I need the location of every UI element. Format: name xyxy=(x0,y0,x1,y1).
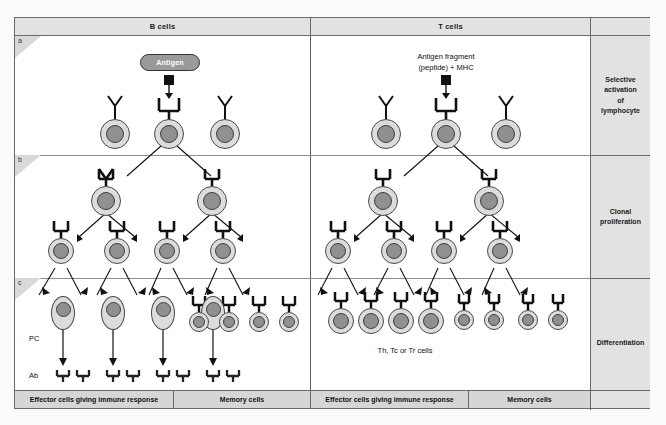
t-effector-caption: Th, Tc or Tr cells xyxy=(340,346,470,357)
t-effector-cell-3 xyxy=(388,308,414,334)
mhc-peptide-square xyxy=(441,75,451,85)
t-effector-cell-1 xyxy=(328,308,354,334)
row-c-b-connectors xyxy=(15,278,310,391)
outcome-b-memory: Memory cells xyxy=(173,390,310,408)
b-clone-level1-left xyxy=(91,186,121,216)
t-memory-cell-2 xyxy=(484,310,504,330)
row-a-t-cells: Antigen fragment (peptide) + MHC xyxy=(310,36,590,155)
b-lymphocyte-unselected-right xyxy=(210,119,240,149)
outcome-t-effector: Effector cells giving immune response xyxy=(310,390,468,408)
outcome-spacer xyxy=(590,390,650,408)
diagram-frame: B cells T cells Selective activation of … xyxy=(14,17,650,409)
stage-label-differentiation: Differentiation xyxy=(590,278,650,408)
plasma-cell-label: PC xyxy=(29,334,39,343)
b-memory-cell-3 xyxy=(249,312,269,332)
stage-label-clonal-proliferation: Clonal proliferation xyxy=(590,155,650,278)
b-clone-level2-4 xyxy=(210,238,236,264)
t-clone-level1-left xyxy=(368,186,398,216)
b-lymphocyte-unselected-left xyxy=(100,119,130,149)
outcome-t-memory: Memory cells xyxy=(468,390,590,408)
row-b-t-cells xyxy=(310,155,590,278)
b-lymphocyte-selected xyxy=(154,119,184,149)
t-effector-cell-2 xyxy=(358,308,384,334)
b-memory-cell-4 xyxy=(279,312,299,332)
stage-a-line2: activation xyxy=(601,85,640,96)
row-c-t-cells: Th, Tc or Tr cells xyxy=(310,278,590,391)
stage-b-line1: Clonal xyxy=(600,207,641,218)
t-clone-level1-right xyxy=(474,186,504,216)
b-clone-level2-2 xyxy=(104,238,130,264)
antigen-fragment-line1: Antigen fragment xyxy=(366,52,526,63)
b-memory-cell-2 xyxy=(219,312,239,332)
row-b-b-cells: b xyxy=(15,155,310,278)
t-lymphocyte-unselected-left xyxy=(371,119,401,149)
row-c-b-cells: c PC Ab xyxy=(15,278,310,391)
b-clone-level2-1 xyxy=(48,238,74,264)
t-clone-level2-1 xyxy=(325,238,351,264)
t-clone-level2-2 xyxy=(381,238,407,264)
t-clone-level2-4 xyxy=(487,238,513,264)
t-lymphocyte-selected xyxy=(431,119,461,149)
antibody-label: Ab xyxy=(29,371,38,380)
stage-letter-a: a xyxy=(15,36,41,58)
row-c-t-connectors xyxy=(310,278,590,391)
stage-a-line4: lymphocyte xyxy=(601,106,640,117)
stage-label-selective-activation: Selective activation of lymphocyte xyxy=(590,36,650,155)
b-clone-level1-right xyxy=(197,186,227,216)
outcome-b-effector: Effector cells giving immune response xyxy=(15,390,173,408)
stage-a-line3: of xyxy=(601,96,640,107)
t-lymphocyte-unselected-right xyxy=(491,119,521,149)
antigen-fragment-line2: (peptide) + MHC xyxy=(366,63,526,74)
antigen-square xyxy=(164,75,174,85)
b-memory-cell-1 xyxy=(189,312,209,332)
plasma-cell-1 xyxy=(51,296,75,330)
plasma-cell-3 xyxy=(151,296,175,330)
t-clone-level2-3 xyxy=(431,238,457,264)
t-memory-cell-4 xyxy=(548,310,568,330)
stage-letter-b: b xyxy=(15,155,41,177)
stage-b-line2: proliferation xyxy=(600,217,641,228)
column-header-b-cells: B cells xyxy=(15,18,310,36)
stage-a-line1: Selective xyxy=(601,75,640,86)
t-memory-cell-3 xyxy=(518,310,538,330)
t-effector-cell-4 xyxy=(418,308,444,334)
antigen-fragment-caption: Antigen fragment (peptide) + MHC xyxy=(366,52,526,74)
row-a-b-cells: a Antigen xyxy=(15,36,310,155)
plasma-cell-2 xyxy=(101,296,125,330)
b-clone-level2-3 xyxy=(154,238,180,264)
stage-c-line1: Differentiation xyxy=(597,338,644,349)
column-header-t-cells: T cells xyxy=(310,18,590,36)
stage-letter-c: c xyxy=(15,278,41,300)
t-memory-cell-1 xyxy=(454,310,474,330)
column-header-stages xyxy=(590,18,650,36)
antigen-pill: Antigen xyxy=(140,54,200,71)
figure-canvas: B cells T cells Selective activation of … xyxy=(0,0,666,425)
